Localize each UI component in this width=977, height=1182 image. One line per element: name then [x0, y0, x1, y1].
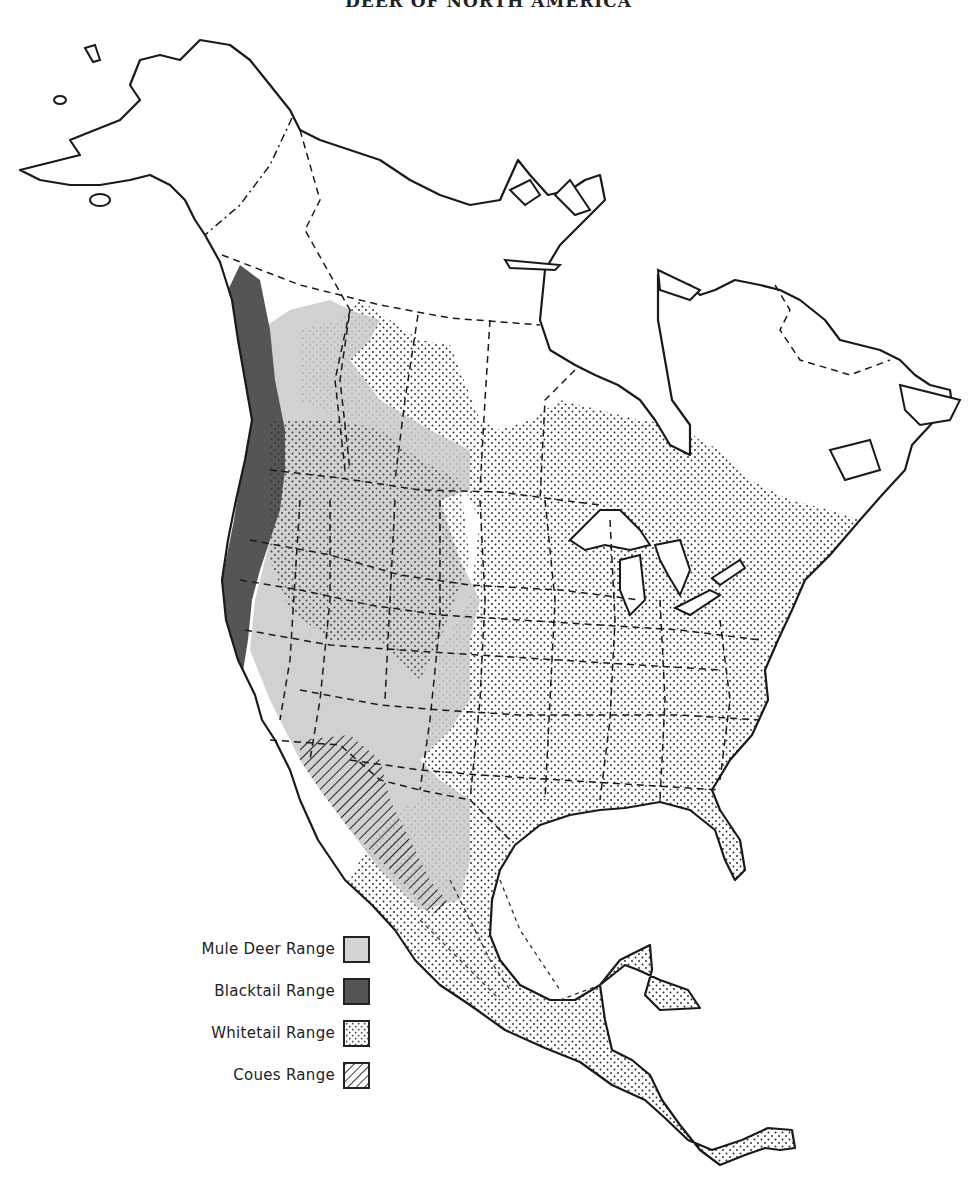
legend-label: Coues Range: [233, 1066, 335, 1084]
whitetail-swatch: [343, 1020, 370, 1047]
legend-label: Blacktail Range: [214, 982, 335, 1000]
mule-deer-swatch: [343, 936, 370, 963]
blacktail-swatch: [343, 978, 370, 1005]
legend-label: Whitetail Range: [211, 1024, 335, 1042]
legend-label: Mule Deer Range: [201, 940, 335, 958]
legend-item-blacktail: Blacktail Range: [140, 970, 370, 1012]
legend-item-mule-deer: Mule Deer Range: [140, 928, 370, 970]
legend-item-coues: Coues Range: [140, 1054, 370, 1096]
coues-swatch: [343, 1062, 370, 1089]
legend-item-whitetail: Whitetail Range: [140, 1012, 370, 1054]
legend: Mule Deer Range Blacktail Range Whitetai…: [140, 928, 370, 1096]
